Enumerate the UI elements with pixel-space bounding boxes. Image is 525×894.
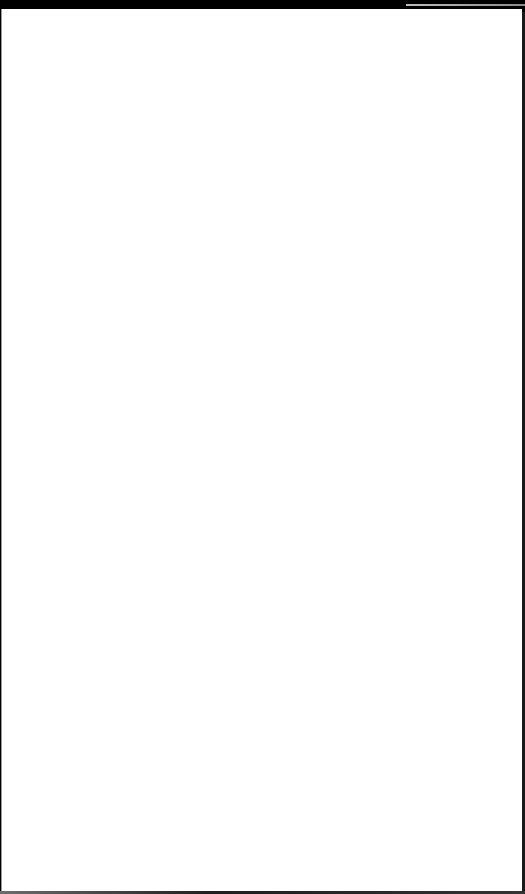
page-content <box>2 9 522 891</box>
top-accent-line <box>406 4 525 6</box>
screen-frame <box>0 0 525 894</box>
top-bar <box>0 0 525 8</box>
blank-page[interactable] <box>1 9 522 891</box>
